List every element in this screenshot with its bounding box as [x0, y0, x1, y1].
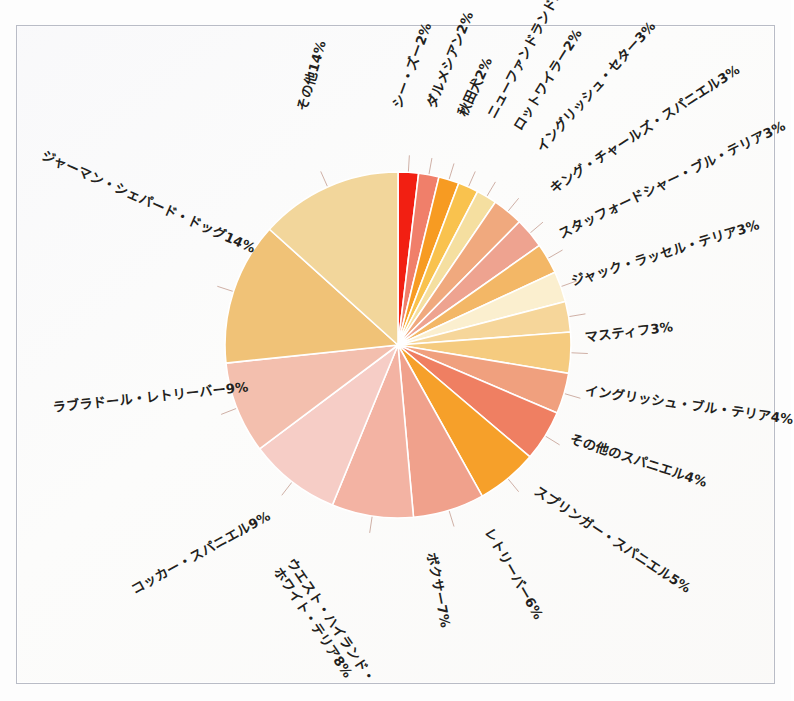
label-leader-line — [321, 171, 329, 188]
label-leader-line — [507, 198, 519, 213]
label-leader-line — [507, 477, 519, 492]
label-leader-line — [528, 222, 543, 234]
label-leader-line — [486, 182, 496, 198]
pie-slices-group — [225, 172, 571, 518]
label-leader-line — [567, 314, 586, 317]
label-leader-line — [448, 508, 454, 526]
label-leader-line — [546, 250, 562, 260]
label-leader-line — [569, 353, 588, 354]
label-leader-line — [448, 163, 454, 181]
label-leader-line — [562, 393, 580, 398]
label-leader-line — [468, 171, 476, 188]
label-leader-line — [429, 158, 432, 177]
label-leader-line — [408, 155, 409, 174]
label-leader-line — [543, 435, 559, 445]
label-leader-line — [217, 286, 235, 292]
